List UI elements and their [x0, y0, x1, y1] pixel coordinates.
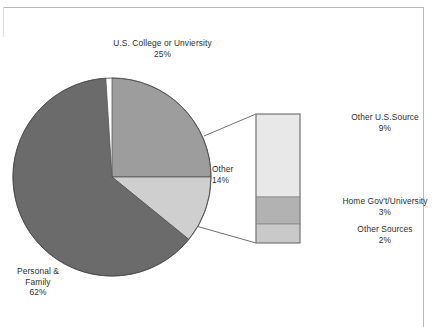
pie-label-college-text: U.S. College or Unviersity	[113, 38, 211, 48]
pie-label-college: U.S. College or Unviersity 25%	[95, 38, 230, 59]
pie-label-personal-text-line2: Family	[2, 277, 74, 288]
bar-label-home-gov-university-value: 3%	[329, 207, 441, 218]
bar-segment-home-gov-university[interactable]	[256, 197, 300, 224]
pie-label-other-value: 14%	[212, 175, 268, 186]
connector-line-lower	[196, 226, 256, 243]
pie-label-personal-value: 62%	[2, 287, 74, 298]
bar-label-other-us-source-text: Other U.S.Source	[351, 112, 419, 122]
pie-chart-figure: U.S. College or Unviersity 25% Personal …	[0, 0, 446, 327]
pie	[13, 78, 211, 276]
bar-label-other-sources-text: Other Sources	[357, 224, 412, 234]
bar-label-other-us-source: Other U.S.Source 9%	[329, 112, 441, 133]
pie-label-other-text: Other	[212, 164, 233, 174]
pie-label-other: Other 14%	[212, 164, 268, 185]
pie-slice-college[interactable]	[112, 78, 211, 177]
bar-segment-other-sources[interactable]	[256, 224, 300, 243]
bar-label-home-gov-university: Home Gov't/University 3%	[329, 196, 441, 217]
pie-label-personal-text-line1: Personal &	[17, 266, 59, 276]
pie-label-college-value: 25%	[95, 49, 230, 60]
bar-label-other-us-source-value: 9%	[329, 123, 441, 134]
pie-label-personal: Personal & Family 62%	[2, 266, 74, 298]
connector-line-upper	[204, 114, 256, 136]
bar-label-other-sources: Other Sources 2%	[329, 224, 441, 245]
bar-label-home-gov-university-text: Home Gov't/University	[342, 196, 427, 206]
bar-label-other-sources-value: 2%	[329, 235, 441, 246]
